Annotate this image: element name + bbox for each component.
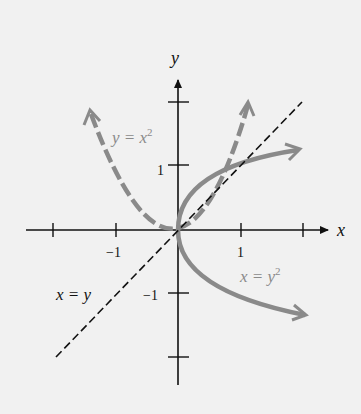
x-tick-label-1: 1	[237, 245, 244, 260]
x-tick-label-neg1: −1	[106, 245, 121, 260]
label-x-equals-y-squared: x = y2	[239, 265, 281, 286]
label-x-equals-y: x = y	[55, 285, 92, 304]
label-y-equals-x-squared: y = x2	[110, 126, 153, 147]
y-tick-label-neg1: −1	[143, 288, 158, 303]
parabola-x-equals-y-squared	[178, 144, 306, 320]
x-axis-label: x	[336, 220, 345, 240]
y-axis-label: y	[169, 48, 179, 68]
y-tick-label-1: 1	[157, 163, 164, 178]
graph-figure: x y −1 1 1 −1 y = x2 x = y2 x = y	[0, 0, 361, 414]
